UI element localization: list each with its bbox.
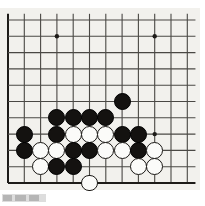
white-stone[interactable] <box>65 126 82 143</box>
black-stone[interactable] <box>114 126 131 143</box>
white-stone[interactable] <box>81 126 98 143</box>
white-stone[interactable] <box>97 142 114 159</box>
black-stone[interactable] <box>16 142 33 159</box>
black-stone[interactable] <box>130 142 147 159</box>
black-stone[interactable] <box>65 158 82 175</box>
black-stone[interactable] <box>130 126 147 143</box>
white-stone[interactable] <box>32 142 49 159</box>
white-stone[interactable] <box>114 142 131 159</box>
star-point <box>55 34 59 38</box>
board-grid <box>0 0 205 206</box>
white-stone[interactable] <box>97 126 114 143</box>
black-stone[interactable] <box>16 126 33 143</box>
white-stone[interactable] <box>130 158 147 175</box>
go-board-figure <box>0 0 205 206</box>
star-point <box>153 34 157 38</box>
black-stone[interactable] <box>65 142 82 159</box>
black-stone[interactable] <box>114 93 131 110</box>
caption-bar <box>2 194 46 202</box>
white-stone[interactable] <box>146 142 163 159</box>
black-stone[interactable] <box>81 142 98 159</box>
star-point <box>153 132 157 136</box>
black-stone[interactable] <box>65 109 82 126</box>
black-stone[interactable] <box>48 126 65 143</box>
